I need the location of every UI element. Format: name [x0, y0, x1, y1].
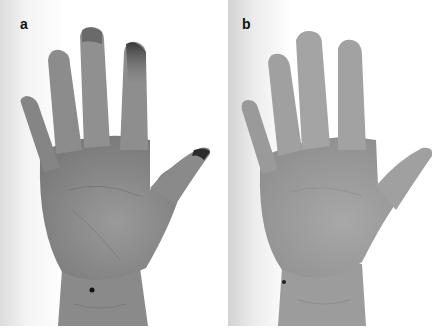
photo-panel-a: a [0, 0, 226, 330]
skin-mark-dot [282, 280, 286, 284]
skin-mark-dot [90, 288, 95, 293]
hand-photo-b [228, 0, 440, 330]
hand-photo-a [0, 0, 226, 330]
panel-label-b: b [242, 16, 251, 32]
photo-panel-b: b [228, 0, 440, 330]
panel-label-a: a [20, 16, 28, 32]
